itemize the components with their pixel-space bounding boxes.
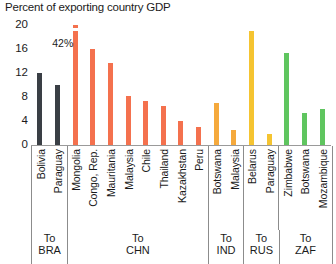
group-cell-rus: ToRUS: [244, 230, 279, 264]
category-label-slot: Malaysia: [226, 146, 244, 230]
bar-slot: [243, 25, 261, 145]
category-label-slot: Paraguay: [261, 146, 279, 230]
bar-slot: [119, 25, 137, 145]
bar-congo-rep: [90, 49, 95, 145]
category-label: Paraguay: [53, 149, 64, 193]
bar-malaysia: [231, 130, 236, 145]
category-label-slot: Belarus: [244, 146, 262, 230]
category-label-slot: Chile: [138, 146, 156, 230]
category-label: Belarus: [247, 149, 258, 184]
bar-slot: [84, 25, 102, 145]
category-label: Congo, Rep.: [88, 149, 99, 207]
bar-slot: [225, 25, 243, 145]
bar-slot: [154, 25, 172, 145]
bar-slot: [313, 25, 331, 145]
group-label-top: To: [44, 232, 56, 244]
bar-slot: [278, 25, 296, 145]
bar-slot: [102, 25, 120, 145]
category-label: Mongolia: [71, 149, 82, 191]
category-label: Mozambique: [318, 149, 329, 208]
category-label-slot: Paraguay: [50, 146, 68, 230]
category-label-slot: Thailand: [155, 146, 173, 230]
category-label: Malaysia: [230, 149, 241, 190]
bar-botswana: [302, 113, 307, 145]
group-label-top: To: [220, 232, 232, 244]
bar-bolivia: [37, 73, 42, 145]
category-label: Bolivia: [36, 149, 47, 179]
group-divider: [243, 230, 244, 264]
bar-slot: 42%: [66, 25, 84, 145]
group-label-bottom: IND: [217, 244, 236, 256]
group-label-bottom: ZAF: [295, 244, 316, 256]
bar-belarus: [249, 31, 254, 145]
category-label-slot: Mozambique: [314, 146, 332, 230]
bar-peru: [196, 127, 201, 145]
category-label-slot: Malaysia: [120, 146, 138, 230]
group-divider: [278, 146, 279, 230]
category-label-slot: Botswana: [208, 146, 226, 230]
category-label: Malaysia: [124, 149, 135, 190]
bar-thailand: [161, 106, 166, 145]
group-cell-chn: ToCHN: [67, 230, 208, 264]
category-label-band: BoliviaParaguayMongoliaCongo, Rep.Maurit…: [31, 146, 333, 230]
category-label-slot: Bolivia: [32, 146, 50, 230]
group-divider: [279, 230, 280, 264]
category-label: Kazakhstan: [177, 149, 188, 203]
group-label-bottom: CHN: [126, 244, 150, 256]
bar-botswana: [214, 103, 219, 145]
category-label: Chile: [141, 149, 152, 172]
chart-figure: Percent of exporting country GDP 2016128…: [0, 0, 336, 264]
bar-malaysia: [126, 96, 131, 145]
bar-chile: [143, 101, 148, 145]
group-label-top: To: [300, 232, 312, 244]
category-label: Paraguay: [265, 149, 276, 193]
y-axis-tick-label: 8: [2, 91, 28, 103]
bar-slot: [207, 25, 225, 145]
group-cell-ind: ToIND: [208, 230, 243, 264]
category-label: Botswana: [300, 149, 311, 194]
group-label-bottom: RUS: [250, 244, 273, 256]
group-cell-zaf: ToZAF: [279, 230, 332, 264]
bar-slot: [172, 25, 190, 145]
bar-slot: [137, 25, 155, 145]
category-label-slot: Peru: [191, 146, 209, 230]
bar-zimbabwe: [284, 53, 289, 145]
category-label-slot: Botswana: [297, 146, 315, 230]
bar-value-annotation: 42%: [52, 37, 73, 49]
group-divider: [67, 146, 68, 230]
chart-title: Percent of exporting country GDP: [5, 1, 171, 13]
group-label-top: To: [132, 232, 144, 244]
group-label-bottom: BRA: [38, 244, 61, 256]
y-axis: 201612840: [0, 16, 28, 152]
y-axis-tick-label: 12: [2, 67, 28, 79]
category-label-slot: Kazakhstan: [173, 146, 191, 230]
group-divider: [208, 230, 209, 264]
bar-kazakhstan: [178, 121, 183, 145]
bar-mauritania: [108, 63, 113, 145]
category-label-slot: Mongolia: [67, 146, 85, 230]
category-label: Peru: [194, 149, 205, 171]
bar-slot: [260, 25, 278, 145]
group-label-top: To: [256, 232, 268, 244]
category-label-slot: Mauritania: [103, 146, 121, 230]
bar-series: 42%: [31, 25, 331, 145]
group-label-band: ToBRAToCHNToINDToRUSToZAF: [31, 230, 333, 264]
category-label-slot: Congo, Rep.: [85, 146, 103, 230]
y-axis-tick-label: 4: [2, 115, 28, 127]
group-divider: [208, 146, 209, 230]
category-label: Botswana: [212, 149, 223, 194]
bar-slot: [190, 25, 208, 145]
bar-paraguay: [55, 85, 60, 145]
category-label: Thailand: [159, 149, 170, 188]
bar-mongolia: [73, 25, 78, 145]
group-cell-bra: ToBRA: [32, 230, 67, 264]
group-divider: [243, 146, 244, 230]
category-label-slot: Zimbabwe: [279, 146, 297, 230]
bar-paraguay: [267, 134, 272, 145]
category-label: Zimbabwe: [283, 149, 294, 197]
bar-slot: [296, 25, 314, 145]
group-divider: [67, 230, 68, 264]
y-axis-tick-label: 16: [2, 43, 28, 55]
category-label: Mauritania: [106, 149, 117, 197]
y-axis-tick-label: 0: [2, 139, 28, 151]
